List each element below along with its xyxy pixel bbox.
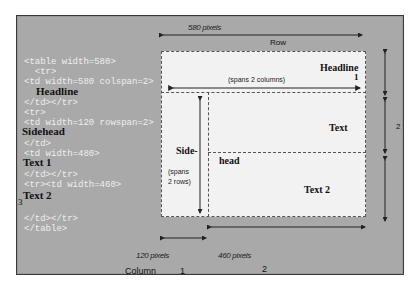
headline-cell-title: Headline bbox=[320, 62, 358, 73]
sidehead-cell-title-part1: Side- bbox=[176, 145, 198, 156]
sidehead-cell-note-line1: (spans bbox=[168, 168, 189, 175]
column-number-1: 1 bbox=[180, 266, 185, 276]
col1-width-label: 120 pixels bbox=[136, 251, 169, 260]
text2-cell-title: Text 2 bbox=[304, 184, 330, 195]
column-label: Column bbox=[125, 266, 156, 276]
headline-cell-number: 1 bbox=[354, 72, 359, 82]
col2-width-label: 460 pixels bbox=[218, 251, 251, 260]
dimension-arrows bbox=[0, 0, 420, 293]
sidehead-cell-note-line2: 2 rows) bbox=[168, 178, 191, 185]
column-number-2: 2 bbox=[262, 264, 267, 274]
headline-cell-note: (spans 2 columns) bbox=[228, 76, 285, 83]
width-580-label: 580 pixels bbox=[188, 23, 221, 32]
sidehead-cell-title-part2: head bbox=[219, 155, 240, 166]
text-cell-title: Text bbox=[329, 122, 348, 133]
row-label: Row bbox=[270, 38, 286, 47]
row-number-label: 2 bbox=[396, 122, 400, 131]
